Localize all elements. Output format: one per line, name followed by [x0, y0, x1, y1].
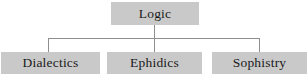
- node-child-sophistry: Sophistry: [212, 52, 307, 74]
- connector-drop-ephidics: [154, 38, 155, 52]
- logic-hierarchy-diagram: Logic Dialectics Ephidics Sophistry: [0, 0, 308, 76]
- node-child-ephidics-label: Ephidics: [130, 56, 179, 70]
- node-child-dialectics: Dialectics: [1, 52, 100, 74]
- node-root-logic: Logic: [111, 2, 199, 25]
- node-child-sophistry-label: Sophistry: [233, 56, 287, 70]
- node-child-dialectics-label: Dialectics: [23, 56, 79, 70]
- connector-root-stem: [154, 25, 155, 38]
- connector-drop-sophistry: [259, 38, 260, 52]
- node-child-ephidics: Ephidics: [107, 52, 202, 74]
- connector-drop-dialectics: [48, 38, 49, 52]
- node-root-label: Logic: [139, 7, 172, 21]
